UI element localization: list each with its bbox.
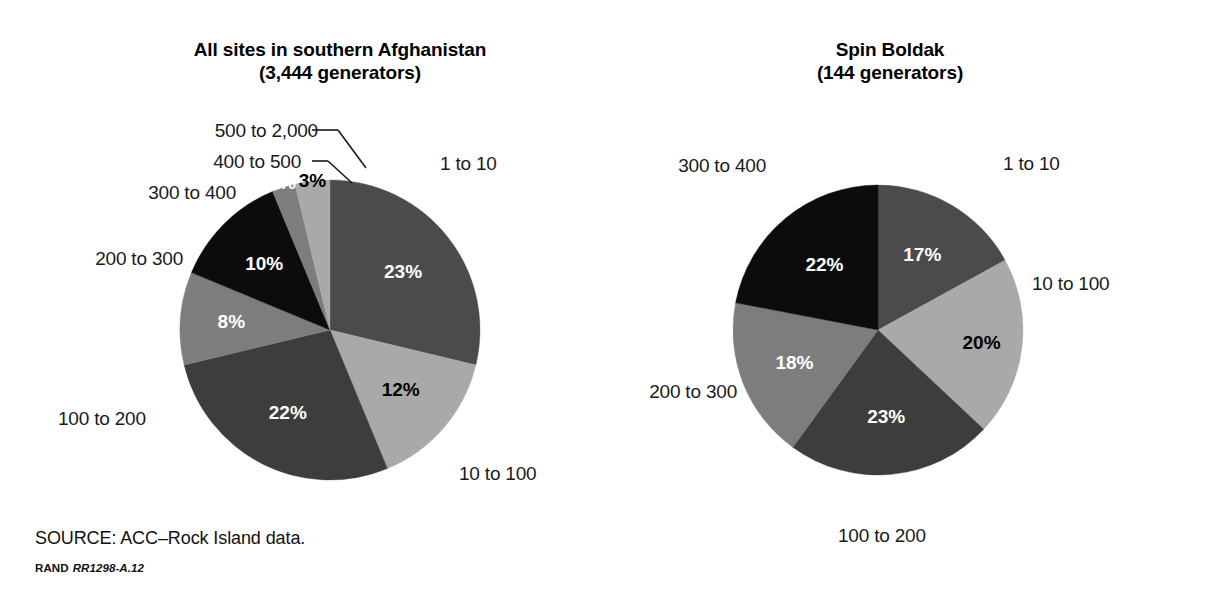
left-callout-400-to-500: 400 to 500 <box>213 151 301 173</box>
rand-label: RAND <box>35 562 69 574</box>
left-chart-title-line2: (3,444 generators) <box>130 61 550 84</box>
left-leader-lines <box>310 125 380 180</box>
right-callout-1-to-10: 1 to 10 <box>1003 153 1060 175</box>
source-note: SOURCE: ACC–Rock Island data. <box>35 528 305 549</box>
right-callout-200-to-300: 200 to 300 <box>649 381 737 403</box>
right-callout-300-to-400: 300 to 400 <box>678 155 766 177</box>
left-callout-300-to-400: 300 to 400 <box>148 182 236 204</box>
rand-document-id: RANDRR1298-A.12 <box>35 562 144 574</box>
right-pie-svg <box>733 185 1023 475</box>
right-callout-100-to-200: 100 to 200 <box>838 525 926 547</box>
left-chart-title-line1: All sites in southern Afghanistan <box>130 38 550 61</box>
left-pie-chart: 23%12%22%8%10%2%3% <box>180 180 480 480</box>
left-callout-1-to-10: 1 to 10 <box>440 153 497 175</box>
left-callout-100-to-200: 100 to 200 <box>58 408 146 430</box>
right-callout-10-to-100: 10 to 100 <box>1032 273 1109 295</box>
right-chart-title-line1: Spin Boldak <box>690 38 1090 61</box>
right-pie-chart: 17%20%23%18%22% <box>733 185 1023 475</box>
right-chart-title-line2: (144 generators) <box>690 61 1090 84</box>
rand-number: RR1298-A.12 <box>73 562 144 574</box>
pie-chart-figure: All sites in southern Afghanistan (3,444… <box>0 0 1207 615</box>
left-pie-svg <box>180 180 480 480</box>
left-callout-10-to-100: 10 to 100 <box>459 463 536 485</box>
left-callout-200-to-300: 200 to 300 <box>95 248 183 270</box>
left-callout-500-to-2000: 500 to 2,000 <box>215 120 318 142</box>
right-chart-title: Spin Boldak (144 generators) <box>690 38 1090 84</box>
left-chart-title: All sites in southern Afghanistan (3,444… <box>130 38 550 84</box>
